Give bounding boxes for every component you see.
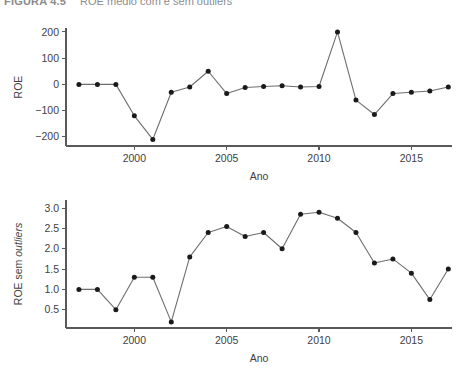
figure-caption: FIGURA 4.5ROE médio com e sem outliers: [0, 0, 458, 9]
data-point: [317, 210, 322, 215]
data-point: [390, 256, 395, 261]
data-point: [372, 260, 377, 265]
data-point: [243, 85, 248, 90]
x-tick-label: 2015: [400, 334, 424, 346]
data-point: [446, 85, 451, 90]
data-point: [187, 85, 192, 90]
data-point: [113, 82, 118, 87]
data-point: [243, 234, 248, 239]
x-tick-label: 2005: [215, 334, 239, 346]
y-tick-label: −100: [35, 104, 59, 116]
data-point: [95, 82, 100, 87]
data-point: [206, 69, 211, 74]
data-point: [280, 246, 285, 251]
chart-panel-roe: −200−10001002002000200520102015AnoROE: [0, 10, 458, 190]
x-tick-label: 2005: [215, 152, 239, 164]
data-point: [132, 275, 137, 280]
x-tick-label: 2015: [400, 152, 424, 164]
data-point: [224, 91, 229, 96]
data-point: [113, 307, 118, 312]
data-point: [353, 98, 358, 103]
data-point: [95, 287, 100, 292]
x-tick-label: 2000: [123, 334, 147, 346]
figure-caption-text: ROE médio com e sem outliers: [80, 0, 232, 7]
data-point: [187, 254, 192, 259]
y-tick-label: 2.0: [44, 242, 59, 254]
chart-roe-sem-outliers: 0.51.01.52.02.53.02000200520102015AnoROE…: [0, 188, 458, 380]
y-tick-label: 1.0: [44, 283, 59, 295]
data-point: [427, 88, 432, 93]
data-point: [353, 230, 358, 235]
y-tick-label: 0: [53, 78, 59, 90]
data-point: [150, 137, 155, 142]
data-point: [76, 287, 81, 292]
data-point: [390, 91, 395, 96]
data-point: [335, 29, 340, 34]
data-point: [335, 216, 340, 221]
data-point: [261, 84, 266, 89]
data-point: [76, 82, 81, 87]
y-tick-label: 2.5: [44, 222, 59, 234]
data-point: [298, 85, 303, 90]
y-tick-label: 0.5: [44, 303, 59, 315]
data-point: [427, 297, 432, 302]
y-axis-title: ROE: [12, 76, 24, 99]
data-point: [409, 271, 414, 276]
y-tick-label: 1.5: [44, 263, 59, 275]
data-point: [150, 275, 155, 280]
series-line: [79, 212, 448, 322]
y-tick-label: 3.0: [44, 202, 59, 214]
chart-roe-com-outliers: −200−10001002002000200520102015AnoROE: [0, 10, 458, 190]
data-point: [261, 230, 266, 235]
data-point: [409, 90, 414, 95]
data-point: [224, 224, 229, 229]
x-tick-label: 2010: [307, 334, 331, 346]
data-point: [169, 90, 174, 95]
data-point: [280, 83, 285, 88]
data-point: [372, 112, 377, 117]
y-tick-label: 200: [41, 26, 59, 38]
x-axis-title: Ano: [250, 352, 269, 364]
data-point: [298, 212, 303, 217]
data-point: [446, 267, 451, 272]
y-tick-label: −200: [35, 130, 59, 142]
y-axis-title: ROE sem outliers: [12, 222, 24, 305]
chart-panel-roe-sem-outliers: 0.51.01.52.02.53.02000200520102015AnoROE…: [0, 188, 458, 380]
x-tick-label: 2010: [307, 152, 331, 164]
data-point: [206, 230, 211, 235]
y-tick-label: 100: [41, 52, 59, 64]
figure-caption-label: FIGURA 4.5: [4, 0, 66, 7]
data-point: [132, 113, 137, 118]
data-point: [169, 319, 174, 324]
x-axis-title: Ano: [250, 170, 269, 182]
data-point: [317, 84, 322, 89]
x-tick-label: 2000: [123, 152, 147, 164]
